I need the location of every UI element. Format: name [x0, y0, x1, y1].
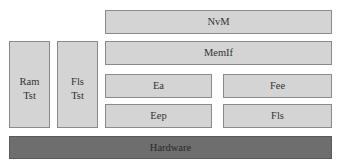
fee-block: Fee — [223, 74, 332, 98]
fls-block: Fls — [223, 104, 332, 128]
fee-label: Fee — [270, 79, 285, 93]
memif-label: MemIf — [204, 46, 233, 60]
eep-label: Eep — [150, 109, 166, 123]
hardware-block: Hardware — [9, 136, 332, 159]
memif-block: MemIf — [105, 41, 332, 65]
ea-block: Ea — [105, 74, 212, 98]
ram-tst-label-line2: Tst — [23, 89, 36, 103]
ram-tst-block: Ram Tst — [9, 41, 50, 128]
ea-label: Ea — [153, 79, 164, 93]
nvm-block: NvM — [105, 10, 332, 34]
nvm-label: NvM — [207, 15, 229, 29]
ram-tst-label-line1: Ram — [20, 75, 40, 89]
fls-label: Fls — [271, 109, 284, 123]
eep-block: Eep — [105, 104, 212, 128]
fls-tst-label-line2: Tst — [71, 89, 84, 103]
fls-tst-block: Fls Tst — [57, 41, 98, 128]
hardware-label: Hardware — [150, 141, 191, 155]
fls-tst-label-line1: Fls — [71, 75, 84, 89]
